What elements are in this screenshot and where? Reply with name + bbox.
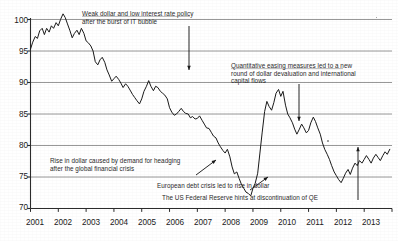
x-tick-label-2009: 2009 [244,218,274,227]
chart-plot-area [0,0,398,241]
x-tick-label-2003: 2003 [76,218,106,227]
x-tick-label-2013: 2013 [356,218,386,227]
annotation-arrow-quantitative-easing [297,84,301,121]
x-tick-label-2012: 2012 [328,218,358,227]
annotation-quantitative-easing-line3: capital flows [231,77,266,84]
annotation-arrow-discontinuation-qe [356,147,360,200]
x-tick-label-2011: 2011 [300,218,330,227]
y-tick-label-80: 80 [2,141,28,150]
annotation-european-debt-crisis-line1: European debt crisis led to rise in doll… [157,182,269,189]
x-tick-label-2007: 2007 [188,218,218,227]
annotation-it-bubble-line2: after the burst of IT bubble [82,18,157,25]
annotation-hedging-demand-line1: Rise in dollar caused by demand for head… [50,157,180,164]
y-tick-label-70: 70 [2,203,28,212]
annotation-it-bubble-line1: Weak dollar and low interest rate policy [82,10,193,17]
x-tick-label-2004: 2004 [104,218,134,227]
y-tick-label-75: 75 [2,172,28,181]
x-tick-label-2010: 2010 [272,218,302,227]
y-tick-label-90: 90 [2,78,28,87]
x-tick-label-2006: 2006 [160,218,190,227]
x-tick-label-2008: 2008 [216,218,246,227]
y-tick-label-95: 95 [2,47,28,56]
y-tick-label-85: 85 [2,110,28,119]
annotation-arrow-it-bubble [187,26,191,70]
annotation-discontinuation-qe-line1: The US Federal Reserve hints at disconti… [162,194,318,201]
x-tick-label-2002: 2002 [48,218,78,227]
annotation-quantitative-easing-line1: Quantitative easing measures led to a ne… [231,62,352,69]
annotation-arrow-hedging-demand [196,160,216,175]
dollar-index-chart: 100 95 90 85 80 75 70 2001 2002 2003 200… [0,0,398,241]
annotation-hedging-demand-line2: after the global financial crisis [50,165,134,172]
x-tick-label-2005: 2005 [132,218,162,227]
x-tick-label-2001: 2001 [20,218,50,227]
annotation-quantitative-easing-line2: round of dollar devaluation and internat… [231,70,356,77]
y-tick-label-100: 100 [2,16,28,25]
